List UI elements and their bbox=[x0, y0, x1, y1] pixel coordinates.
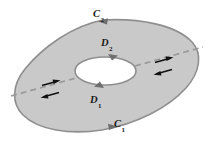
label-D2-letter: D bbox=[101, 37, 109, 48]
label-D1: D1 bbox=[90, 95, 101, 106]
label-C2-subscript: 2 bbox=[100, 16, 104, 24]
figure-container: C2 D2 D1 C1 bbox=[0, 0, 211, 145]
inner-hole-curve bbox=[75, 57, 136, 85]
label-D2: D2 bbox=[101, 38, 112, 49]
label-D2-subscript: 2 bbox=[109, 45, 113, 53]
label-C1-subscript: 1 bbox=[121, 126, 125, 134]
label-C2: C2 bbox=[93, 9, 104, 20]
annulus-diagram bbox=[0, 0, 211, 145]
label-D1-subscript: 1 bbox=[98, 102, 102, 110]
label-C1: C1 bbox=[114, 119, 125, 130]
label-D1-letter: D bbox=[90, 94, 98, 105]
